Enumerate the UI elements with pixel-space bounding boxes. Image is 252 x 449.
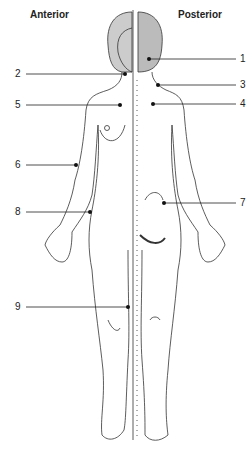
point-label-5: 5: [15, 99, 21, 110]
body-figure: [0, 0, 252, 449]
point-marker-9: [126, 305, 130, 309]
point-label-9: 9: [15, 301, 21, 312]
point-label-6: 6: [15, 159, 21, 170]
point-label-8: 8: [15, 206, 21, 217]
point-marker-7: [162, 201, 166, 205]
point-marker-2: [123, 72, 127, 76]
point-label-7: 7: [240, 197, 246, 208]
point-marker-3: [156, 83, 160, 87]
point-label-2: 2: [15, 68, 21, 79]
point-label-3: 3: [240, 79, 246, 90]
point-marker-4: [151, 102, 155, 106]
point-marker-6: [74, 163, 78, 167]
point-marker-1: [147, 57, 151, 61]
point-marker-8: [88, 210, 92, 214]
point-label-4: 4: [240, 98, 246, 109]
point-marker-5: [118, 103, 122, 107]
point-label-1: 1: [240, 53, 246, 64]
